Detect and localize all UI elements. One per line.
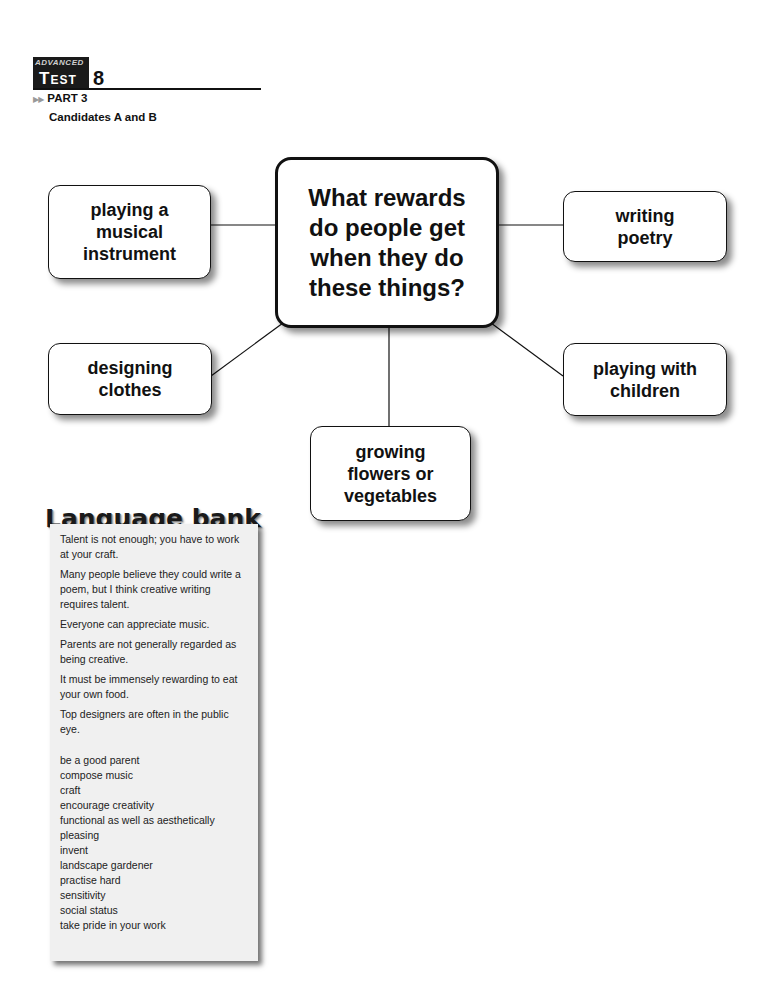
sentence: Top designers are often in the public ey… <box>60 707 248 737</box>
word-item: take pride in your work <box>60 918 248 933</box>
sentence: Everyone can appreciate music. <box>60 617 248 632</box>
sentence: Talent is not enough; you have to work a… <box>60 532 248 562</box>
node-designing-clothes: designing clothes <box>48 343 212 415</box>
sentence: Parents are not generally regarded as be… <box>60 637 248 667</box>
line-clothes <box>211 323 283 376</box>
word-item: craft <box>60 783 248 798</box>
word-item: encourage creativity <box>60 798 248 813</box>
word-item: invent <box>60 843 248 858</box>
word-item: sensitivity <box>60 888 248 903</box>
word-item: be a good parent <box>60 753 248 768</box>
node-playing-music: playing a musical instrument <box>48 185 211 279</box>
node-label: playing a musical instrument <box>75 199 185 265</box>
sentence: Many people believe they could write a p… <box>60 567 248 612</box>
node-writing-poetry: writing poetry <box>563 191 727 262</box>
node-label: growing flowers or vegetables <box>336 441 446 507</box>
node-playing-with-children: playing with children <box>563 343 727 416</box>
word-item: functional as well as aesthetically plea… <box>60 813 248 843</box>
word-item: compose music <box>60 768 248 783</box>
node-growing-flowers: growing flowers or vegetables <box>310 426 471 521</box>
word-item: practise hard <box>60 873 248 888</box>
language-bank-panel: Talent is not enough; you have to work a… <box>50 524 258 961</box>
line-children <box>491 323 563 376</box>
central-question-box: What rewards do people get when they do … <box>275 157 499 328</box>
word-item: landscape gardener <box>60 858 248 873</box>
sentence: It must be immensely rewarding to eat yo… <box>60 672 248 702</box>
node-label: designing clothes <box>80 357 180 401</box>
central-question-text: What rewards do people get when they do … <box>302 183 472 303</box>
word-list: be a good parent compose music craft enc… <box>60 753 248 933</box>
node-label: playing with children <box>580 358 710 402</box>
node-label: writing poetry <box>600 205 690 249</box>
word-item: social status <box>60 903 248 918</box>
